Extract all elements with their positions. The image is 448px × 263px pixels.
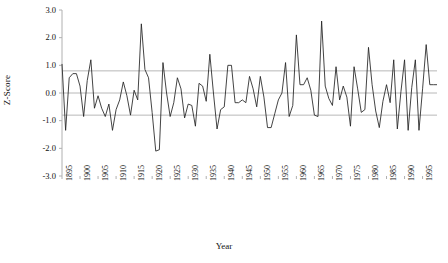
data-line-0 <box>62 21 437 151</box>
plot-area <box>0 0 448 263</box>
axis-lines <box>59 10 423 179</box>
data-series-layer <box>62 21 437 151</box>
z-score-time-series-chart: Z-Score Year 3.02.01.00.0-1.0-2.0-3.0 18… <box>0 0 448 263</box>
